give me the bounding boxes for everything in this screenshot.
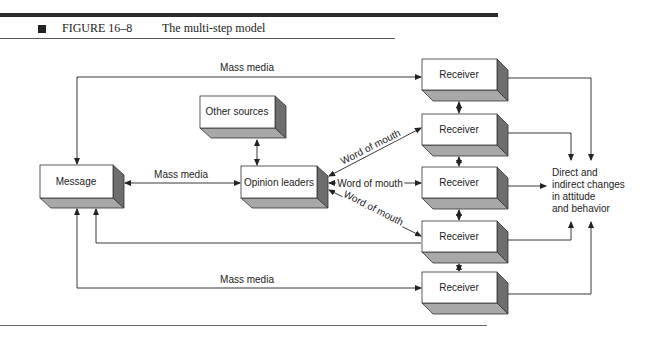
receiver-box-2: Receiver [422,114,508,156]
outcome-label: Direct and indirect changes in attitude … [552,167,646,215]
bottom-rule [0,325,487,326]
multi-step-diagram: Message Other sources Opinion leaders Re… [0,0,646,345]
other-sources-label: Other sources [206,106,269,117]
receiver-label: Receiver [439,231,479,242]
receiver-label: Receiver [439,69,479,80]
mass-media-middle-label: Mass media [154,169,208,180]
other-sources-box: Other sources [200,96,286,138]
receiver-label: Receiver [439,282,479,293]
mass-media-bottom-label: Mass media [220,274,274,285]
receiver-box-1: Receiver [422,59,508,101]
word-of-mouth-lower-label: Word of mouth [342,188,405,227]
opinion-leaders-label: Opinion leaders [244,177,314,188]
message-box: Message [40,165,124,208]
message-label: Message [56,176,97,187]
receiver-label: Receiver [439,124,479,135]
mass-media-top-label: Mass media [220,62,274,73]
connectors [77,77,591,294]
receiver-box-3: Receiver [422,167,508,209]
word-of-mouth-upper-label: Word of mouth [339,127,402,166]
receiver-label: Receiver [439,177,479,188]
receiver-box-4: Receiver [422,221,508,263]
opinion-leaders-box: Opinion leaders [241,166,328,208]
receiver-box-5: Receiver [422,272,508,314]
